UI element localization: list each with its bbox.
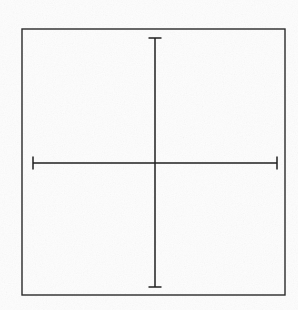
graph-canvas [0,0,298,310]
figure-container [0,0,298,310]
paper-background [0,0,298,310]
